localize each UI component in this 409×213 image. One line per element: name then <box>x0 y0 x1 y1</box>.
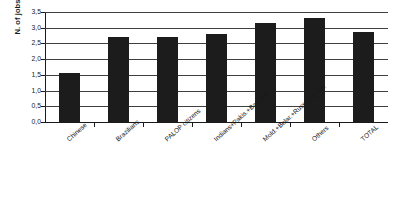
x-tick-mark <box>290 123 291 127</box>
y-tick-mark <box>41 122 45 123</box>
gridline-0-0 <box>45 122 388 123</box>
y-tick-label: 2,0 <box>13 56 41 63</box>
plot-area <box>45 12 388 122</box>
bar-chart: N. of jobs 3,53,02,52,01,51,00,50,0 Chin… <box>0 0 409 213</box>
x-tick-label: Others <box>311 125 330 143</box>
x-tick-mark <box>339 123 340 127</box>
y-tick-mark <box>41 59 45 60</box>
x-tick-label: TOTAL <box>360 124 380 143</box>
y-tick-label: 1,0 <box>13 88 41 95</box>
x-tick-mark <box>192 123 193 127</box>
y-tick-mark <box>41 12 45 13</box>
y-tick-label: 1,5 <box>13 72 41 79</box>
y-tick-mark <box>41 75 45 76</box>
x-tick-mark <box>94 123 95 127</box>
y-tick-mark <box>41 106 45 107</box>
bar <box>157 37 179 122</box>
x-tick-mark <box>241 123 242 127</box>
bar <box>206 34 228 122</box>
bar <box>59 73 81 122</box>
bar <box>304 18 326 122</box>
y-tick-label: 3,0 <box>13 25 41 32</box>
y-tick-mark <box>41 91 45 92</box>
y-tick-label: 0,0 <box>13 119 41 126</box>
y-tick-mark <box>41 43 45 44</box>
y-tick-mark <box>41 28 45 29</box>
bar <box>353 32 375 122</box>
gridline-3-5 <box>45 12 388 13</box>
y-tick-label: 0,5 <box>13 103 41 110</box>
y-tick-label: 3,5 <box>13 9 41 16</box>
bar <box>255 23 277 122</box>
x-tick-label: Chinese <box>66 122 88 143</box>
gridline-3-0 <box>45 28 388 29</box>
y-tick-label: 2,5 <box>13 40 41 47</box>
x-tick-mark <box>143 123 144 127</box>
bar <box>108 37 130 122</box>
